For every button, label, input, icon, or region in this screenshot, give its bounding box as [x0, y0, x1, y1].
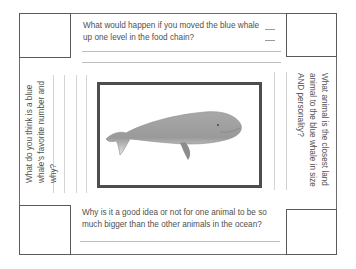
top-question: What would happen if you moved the blue …	[83, 20, 283, 44]
answer-dash	[265, 29, 275, 30]
left-question-line-3: why?	[48, 63, 60, 183]
answer-line	[82, 62, 281, 63]
right-question-line-3: AND personality?	[294, 73, 306, 193]
top-question-line-1: What would happen if you moved the blue …	[83, 20, 283, 32]
answer-line-vertical	[86, 75, 87, 193]
corner-box-bottom-right	[286, 209, 337, 255]
answer-line	[82, 51, 281, 52]
right-question-line-2: animal to the blue whale in size	[306, 73, 318, 193]
answer-dash	[265, 40, 275, 41]
corner-box-top-left	[19, 13, 71, 58]
right-question-line-1: What animal is the closest land	[318, 73, 330, 193]
blue-whale-illustration	[100, 85, 259, 185]
corner-box-top-right	[286, 13, 337, 57]
top-question-line-2: up one level in the food chain?	[83, 32, 283, 44]
answer-line-vertical	[64, 75, 65, 193]
whale-image-frame	[97, 82, 262, 188]
left-question-line-1: What do you think is a blue	[24, 63, 36, 183]
right-question: What animal is the closest land animal t…	[294, 73, 330, 193]
answer-line	[80, 241, 280, 242]
left-question-line-2: whale's favorite number and	[36, 63, 48, 183]
answer-line-vertical	[76, 75, 77, 193]
bottom-question-line-1: Why is it a good idea or not for one ani…	[82, 207, 292, 219]
left-question: What do you think is a blue whale's favo…	[24, 63, 60, 183]
answer-line-vertical	[286, 72, 287, 190]
bottom-question-line-2: much bigger than the other animals in th…	[82, 219, 292, 231]
bottom-question: Why is it a good idea or not for one ani…	[82, 207, 292, 231]
corner-box-bottom-left	[19, 205, 71, 255]
answer-line-vertical	[274, 72, 275, 190]
